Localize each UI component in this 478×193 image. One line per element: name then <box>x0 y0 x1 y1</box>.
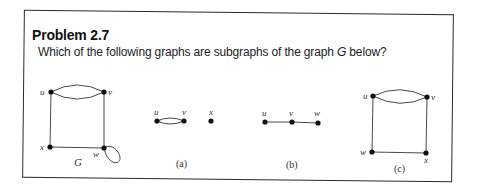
label-c-w: w <box>360 147 366 157</box>
vertex-w <box>315 120 320 125</box>
label-G-x: x <box>39 142 44 152</box>
caption-c: (c) <box>394 163 405 175</box>
vertex-v <box>424 94 429 99</box>
label-a-u: u <box>154 107 159 117</box>
edge-uv-upper <box>51 85 104 92</box>
vertex-x <box>47 144 52 149</box>
label-b-w: w <box>314 108 320 118</box>
edge-vw <box>292 122 318 123</box>
label-a-x: x <box>208 107 213 117</box>
vertex-u <box>48 89 53 94</box>
label-b-v: v <box>289 108 293 118</box>
vertex-v <box>181 118 186 123</box>
graph-figures: u v x w G u v x (a) u v w (b) u <box>0 0 478 193</box>
edge-xw <box>50 147 104 148</box>
vertex-u <box>154 118 159 123</box>
edge-uv-upper <box>373 90 427 97</box>
edge-uv-lower <box>157 121 184 124</box>
label-a-v: v <box>182 107 186 117</box>
graph-a <box>157 118 184 124</box>
graph-c <box>372 90 427 153</box>
vertex-u <box>262 119 267 124</box>
graph-G-name: G <box>74 156 82 168</box>
vertex-u <box>370 93 375 98</box>
edge-wx <box>372 152 426 153</box>
edge-ux <box>50 92 51 147</box>
caption-a: (a) <box>176 158 187 170</box>
label-G-v: v <box>108 87 112 97</box>
caption-b: (b) <box>286 159 298 171</box>
graph-c-vertices <box>369 93 429 155</box>
label-c-u: u <box>363 91 368 101</box>
vertex-x <box>208 118 213 123</box>
label-G-u: u <box>40 87 45 97</box>
edge-uv-lower <box>373 96 427 103</box>
label-c-x: x <box>423 155 428 165</box>
edge-uv-upper <box>157 118 184 121</box>
edge-vx <box>426 97 427 153</box>
vertex-v <box>101 89 106 94</box>
edge-uw <box>372 96 373 152</box>
label-c-v: v <box>431 92 435 102</box>
edge-uv-lower <box>51 92 104 99</box>
vertex-w <box>101 145 106 150</box>
vertex-w <box>369 149 374 154</box>
vertex-v <box>289 119 294 124</box>
label-G-w: w <box>93 149 99 159</box>
label-b-u: u <box>262 108 267 118</box>
